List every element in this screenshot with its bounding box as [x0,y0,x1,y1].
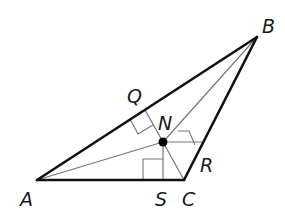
right-angle-mark-Q [130,119,153,134]
label-C: C [182,188,196,210]
right-angle-mark-S [143,159,163,180]
segment-NA [37,142,163,180]
label-S: S [155,188,167,210]
label-Q: Q [127,85,142,107]
label-A: A [18,188,33,210]
side-BC [184,37,257,180]
point-N [159,138,168,147]
label-R: R [200,154,213,176]
right-angle-mark-R [178,131,195,145]
triangle-diagram: A B C N Q R S [0,0,285,218]
label-N: N [158,112,172,134]
segment-NC [163,142,184,180]
label-B: B [262,15,275,37]
